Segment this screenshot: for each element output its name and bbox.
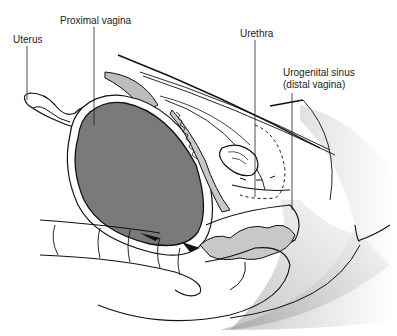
- label-distal-vagina: (distal vagina): [283, 79, 345, 91]
- label-urethra: Urethra: [240, 28, 273, 40]
- label-urogenital-sinus: Urogenital sinus: [283, 67, 355, 79]
- anatomy-diagram: Uterus Proximal vagina Urethra Urogenita…: [0, 0, 397, 336]
- label-proximal-vagina: Proximal vagina: [60, 15, 131, 27]
- diagram-artwork: [0, 0, 397, 336]
- label-uterus: Uterus: [13, 34, 42, 46]
- urethra-shape: [220, 145, 258, 175]
